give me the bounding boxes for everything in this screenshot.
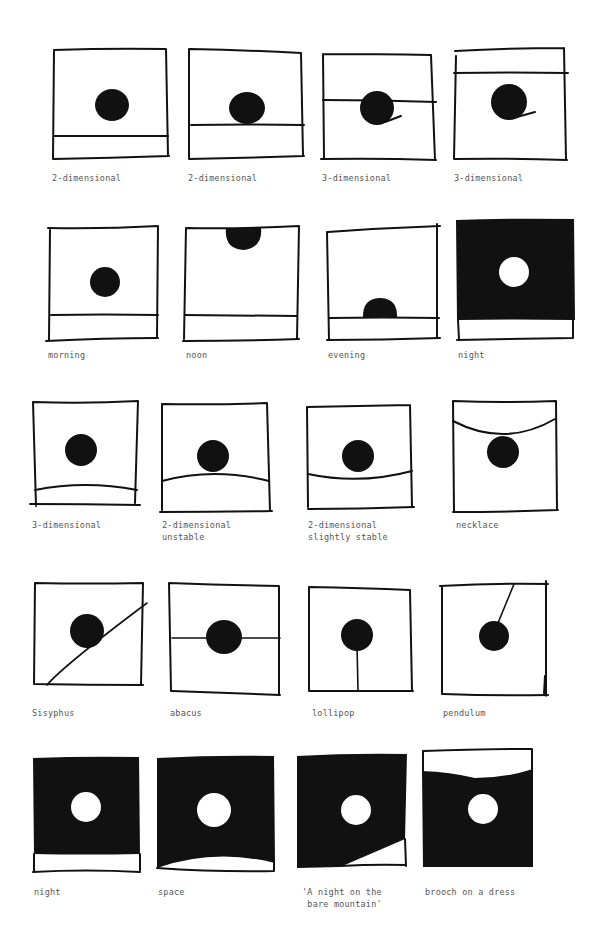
sketch-2d-slightly-stable bbox=[305, 403, 419, 517]
sketch-sisyphus bbox=[33, 581, 149, 689]
caption: 2-dimensional bbox=[52, 172, 121, 184]
sketch-3d-horizon-high bbox=[451, 46, 573, 162]
caption: evening bbox=[328, 349, 365, 361]
sketch-pendulum bbox=[438, 580, 554, 698]
sketch-3d-curved-ground bbox=[30, 400, 144, 512]
caption: noon bbox=[186, 349, 207, 361]
caption: pendulum bbox=[443, 707, 486, 719]
caption: abacus bbox=[170, 707, 202, 719]
caption: 2-dimensional unstable bbox=[162, 519, 231, 543]
sketch-necklace bbox=[450, 396, 564, 518]
caption: night bbox=[458, 349, 485, 361]
caption: 3-dimensional bbox=[454, 172, 523, 184]
caption: lollipop bbox=[312, 707, 355, 719]
sketch-2d-ground-below bbox=[50, 46, 172, 162]
caption: Sisyphus bbox=[32, 707, 75, 719]
caption: 'A night on the bare mountain' bbox=[302, 886, 382, 910]
caption: 2-dimensional slightly stable bbox=[308, 519, 388, 543]
sketch-night-bare-mountain bbox=[295, 752, 411, 870]
caption: 2-dimensional bbox=[188, 172, 257, 184]
sketch-night-black bbox=[30, 755, 144, 873]
sketch-lollipop bbox=[307, 585, 419, 697]
sketch-space bbox=[154, 753, 278, 873]
caption: morning bbox=[48, 349, 85, 361]
sketch-noon bbox=[182, 225, 304, 341]
sketch-abacus bbox=[167, 581, 283, 697]
sketch-3d-horizon-mid bbox=[319, 46, 441, 162]
sketch-2d-unstable bbox=[159, 400, 273, 516]
caption: 3-dimensional bbox=[322, 172, 391, 184]
caption: space bbox=[158, 886, 185, 898]
caption: night bbox=[34, 886, 61, 898]
sketch-evening bbox=[323, 220, 445, 342]
sketch-morning bbox=[45, 225, 167, 341]
sketch-brooch-on-dress bbox=[420, 746, 538, 870]
caption: brooch on a dress bbox=[425, 886, 515, 898]
sketch-night bbox=[453, 216, 577, 340]
caption: necklace bbox=[456, 519, 499, 531]
caption: 3-dimensional bbox=[32, 519, 101, 531]
sketch-2d-resting bbox=[186, 46, 308, 162]
